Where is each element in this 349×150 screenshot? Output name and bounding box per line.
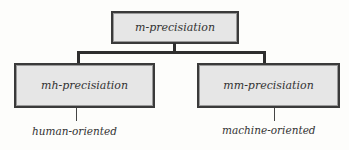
node-label: mh-precisiation <box>41 79 128 92</box>
precisiation-diagram: m-precisiation mh-precisiation mm-precis… <box>0 0 349 150</box>
annotation-pointer-right <box>274 108 275 121</box>
node-label: m-precisiation <box>135 21 215 34</box>
node-label: mm-precisiation <box>223 79 313 92</box>
annotation-machine-oriented: machine-oriented <box>222 124 316 136</box>
node-mh-precisiation: mh-precisiation <box>14 63 155 108</box>
connector-horizontal-bar <box>77 51 266 54</box>
annotation-human-oriented: human-oriented <box>32 125 117 137</box>
node-m-precisiation: m-precisiation <box>111 11 239 44</box>
node-mm-precisiation: mm-precisiation <box>197 63 340 108</box>
annotation-pointer-left <box>76 108 77 121</box>
